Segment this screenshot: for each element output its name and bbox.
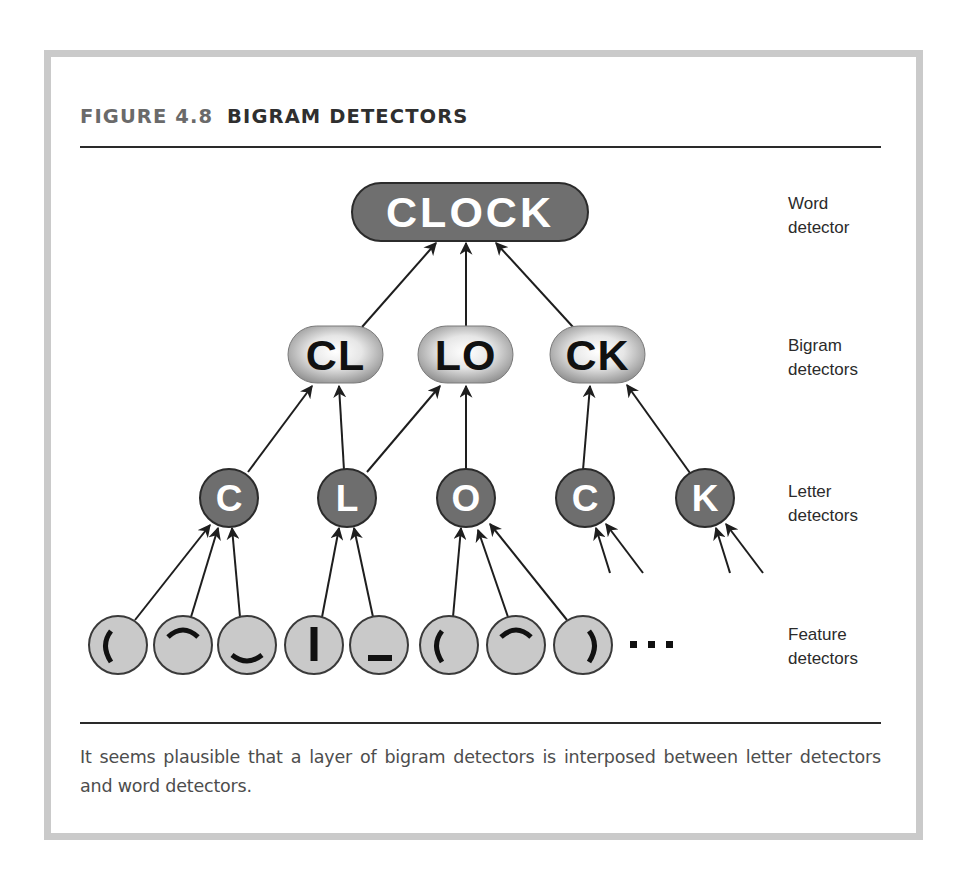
level-label-line: detectors [788,504,858,528]
level-label-line: Letter [788,480,858,504]
connection-arrow [726,524,763,573]
letter-detector-l: L [318,469,376,527]
word-detector-label: CLOCK [386,188,554,236]
feature-detector-vertical-bar [285,616,343,674]
level-label-line: detector [788,216,849,240]
feature-detector-top-arc [487,616,545,674]
connection-arrow [478,530,508,617]
feature-detector-left-arc [89,616,147,674]
connection-arrow [627,385,690,473]
connection-arrow [339,386,344,470]
letter-detector-c: C [200,469,258,527]
bigram-detector-layer: CLLOCK [288,326,645,383]
feature-detector-layer [89,616,673,674]
connection-arrow [354,528,373,617]
level-label-line: Bigram [788,334,858,358]
level-label-bigram: Bigram detectors [788,334,858,382]
connection-arrow [232,528,240,617]
bigram-detector-ck: CK [550,326,645,383]
feature-detector-right-arc [554,616,612,674]
bigram-detector-label: LO [435,331,497,379]
letter-detector-label: C [216,478,243,519]
letter-detector-layer: CLOCK [200,469,734,527]
connection-arrow [248,386,312,472]
connection-arrow [362,243,436,327]
connection-arrow [322,528,339,617]
letter-detector-k: K [676,469,734,527]
figure-caption: It seems plausible that a layer of bigra… [80,743,881,801]
connection-arrow [583,386,590,470]
letter-detector-label: O [452,478,481,519]
feature-detector-top-arc [154,616,212,674]
level-label-line: Feature [788,623,858,647]
connection-arrows [135,243,763,620]
bigram-detector-lo: LO [418,326,513,383]
letter-detector-label: L [336,478,359,519]
bottom-bar-icon [368,655,392,661]
connection-arrow [453,528,461,617]
level-label-letter: Letter detectors [788,480,858,528]
feature-detector-bottom-arc [218,616,276,674]
connection-arrow [606,524,643,573]
level-label-line: detectors [788,358,858,382]
level-label-word: Word detector [788,192,849,240]
bigram-detector-label: CK [565,331,629,379]
letter-detector-label: C [572,478,599,519]
bigram-detector-cl: CL [288,326,383,383]
connection-arrow [191,528,218,617]
bigram-detector-label: CL [306,331,365,379]
connection-arrow [367,386,440,472]
level-label-feature: Feature detectors [788,623,858,671]
connection-arrow [596,528,610,573]
letter-detector-c: C [556,469,614,527]
feature-detector-left-arc [420,616,478,674]
word-detector-clock: CLOCK [352,183,588,241]
level-label-line: Word [788,192,849,216]
feature-detector-bottom-bar [350,616,408,674]
connection-arrow [496,243,573,327]
more-features-ellipsis [630,641,673,648]
connection-arrow [490,524,567,620]
letter-detector-label: K [692,478,719,519]
letter-detector-o: O [437,469,495,527]
caption-rule [80,722,881,724]
vertical-bar-icon [311,627,318,661]
level-label-line: detectors [788,647,858,671]
connection-arrow [716,528,730,573]
word-detector-layer: CLOCK [352,183,588,241]
connection-arrow [135,525,210,620]
